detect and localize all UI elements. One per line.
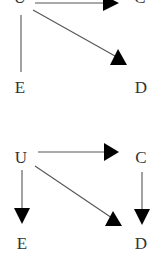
edge-c-to-d xyxy=(134,172,150,225)
node-c: C xyxy=(135,148,146,167)
node-e: E xyxy=(15,78,25,97)
edge-u-to-d xyxy=(33,10,127,65)
node-e: E xyxy=(17,234,27,253)
top-dag: U C E D xyxy=(14,0,147,97)
node-u: U xyxy=(14,0,26,7)
edge-u-to-e xyxy=(14,170,30,224)
arrowhead-icon xyxy=(110,49,127,65)
bottom-dag: U C E D xyxy=(14,143,150,253)
arrowhead-icon xyxy=(105,211,122,226)
node-d: D xyxy=(135,78,147,97)
arrowhead-icon xyxy=(134,209,150,225)
arrowhead-icon xyxy=(103,0,119,11)
node-c: C xyxy=(134,0,145,7)
arrowhead-icon xyxy=(14,208,30,224)
arrowhead-icon xyxy=(104,143,119,161)
node-u: U xyxy=(15,148,27,167)
edge-u-to-c xyxy=(35,0,119,11)
edge-u-to-c xyxy=(38,143,119,161)
causal-diagrams: U C E D U C E D xyxy=(0,0,155,254)
edge-u-to-d xyxy=(35,166,122,226)
node-d: D xyxy=(135,234,147,253)
